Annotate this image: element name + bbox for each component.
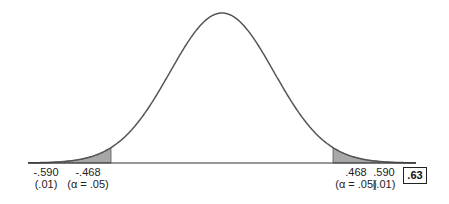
crit-value: .468 bbox=[335, 166, 377, 178]
crit-label-pos-468: .468 (α = .05) bbox=[335, 166, 377, 190]
observed-value-box: .63 bbox=[403, 167, 427, 184]
normal-curve bbox=[28, 13, 416, 163]
crit-label-pos-590: .590 (.01) bbox=[373, 166, 396, 190]
crit-alpha: (.01) bbox=[33, 178, 58, 190]
crit-value: -.590 bbox=[33, 166, 58, 178]
crit-value: .590 bbox=[373, 166, 396, 178]
crit-label-neg-590: -.590 (.01) bbox=[33, 166, 58, 190]
crit-value: -.468 bbox=[67, 166, 109, 178]
crit-alpha: (α = .05) bbox=[67, 178, 109, 190]
crit-alpha: (α = .05) bbox=[335, 178, 377, 190]
crit-alpha: (.01) bbox=[373, 178, 396, 190]
crit-label-neg-468: -.468 (α = .05) bbox=[67, 166, 109, 190]
